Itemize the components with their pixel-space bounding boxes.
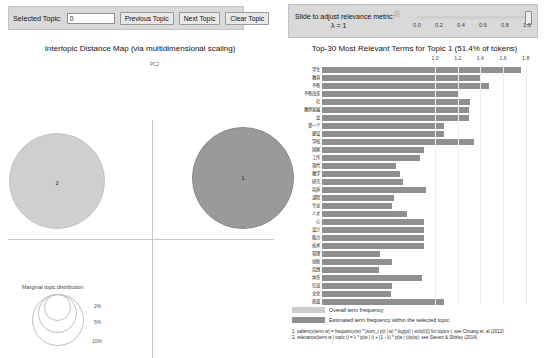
bar-estimated-frequency (322, 211, 407, 217)
topic-controls-bar: Selected Topic: Previous Topic Next Topi… (8, 6, 244, 30)
bar-estimated-frequency (322, 291, 391, 297)
slider-tick-0-2: 0.2 (435, 22, 443, 28)
next-topic-button[interactable]: Next Topic (179, 12, 221, 25)
bar-estimated-frequency (322, 107, 469, 113)
bar-xtick-1-6: 1.6 (499, 55, 506, 61)
bar-overall-frequency (322, 91, 459, 97)
bar-estimated-frequency (322, 75, 480, 81)
bar-row[interactable]: 教师发展 (284, 106, 545, 113)
bar-overall-frequency (322, 115, 469, 121)
legend-swatch-estimated (292, 317, 325, 323)
clear-topic-button[interactable]: Clear Topic (225, 12, 269, 25)
bar-estimated-frequency (322, 131, 444, 137)
bar-row[interactable]: 不断改革 (284, 90, 545, 97)
bar-overall-frequency (322, 203, 392, 209)
bar-overall-frequency (322, 139, 474, 145)
bar-row[interactable]: 教学 (284, 170, 545, 177)
bar-row[interactable]: 课程 (284, 194, 545, 201)
bar-row[interactable]: 信息 (284, 282, 545, 289)
bar-row[interactable]: 创新 (284, 258, 545, 265)
bar-term-label: 课程 (312, 194, 320, 201)
bar-term-label: 设计 (312, 226, 320, 233)
bar-overall-frequency (322, 227, 424, 233)
marginal-topic-distribution-legend: Marginal topic distribution 2% 5% 10% (22, 284, 132, 356)
bar-estimated-frequency (322, 267, 379, 273)
slider-tick-0-0: 0.0 (413, 22, 421, 28)
bar-term-label: 教师发展 (304, 106, 320, 113)
bar-estimated-frequency (322, 259, 392, 265)
marginal-size-label-5: 5% (94, 319, 101, 325)
selected-topic-input[interactable] (67, 13, 115, 24)
relevance-slider-ticks: 0.00.20.40.60.81.0 (413, 22, 531, 32)
bar-row[interactable]: 建设 (284, 130, 545, 137)
bar-xtick-1-4: 1.4 (477, 55, 484, 61)
bar-row[interactable]: 体系 (284, 274, 545, 281)
bar-overall-frequency (322, 251, 380, 257)
bar-row[interactable]: 质量 (284, 298, 545, 305)
bar-estimated-frequency (322, 91, 459, 97)
bar-row[interactable]: 工作 (284, 154, 545, 161)
bar-row[interactable]: 文化 (284, 290, 545, 297)
bar-overall-frequency (322, 275, 422, 281)
lambda-value-label: λ = 1 (331, 22, 346, 29)
bar-row[interactable]: 社 (284, 98, 545, 105)
bar-row[interactable]: 培养 (284, 186, 545, 193)
bar-term-label: 专业 (312, 202, 320, 209)
bar-overall-frequency (322, 147, 424, 153)
slider-tick-0-8: 0.8 (501, 22, 509, 28)
bar-estimated-frequency (322, 187, 426, 193)
info-icon[interactable]: ⓘ (394, 9, 400, 18)
bar-row[interactable]: 教育 (284, 74, 545, 81)
selected-topic-label: Selected Topic: (13, 14, 62, 23)
bar-overall-frequency (322, 131, 444, 137)
bar-row[interactable]: 人才 (284, 210, 545, 217)
bar-estimated-frequency (322, 139, 474, 145)
bar-estimated-frequency (322, 179, 403, 185)
footnote-relevance: 2. relevance(term w | topic t) = λ * p(w… (292, 335, 545, 341)
bar-term-label: 创新 (312, 258, 320, 265)
bar-xtick-1-0: 1.0 (432, 55, 439, 61)
bar-estimated-frequency (322, 83, 489, 89)
relevance-slider-track[interactable] (417, 16, 531, 19)
bar-row[interactable]: 实践 (284, 266, 545, 273)
bar-estimated-frequency (322, 251, 380, 257)
bar-row[interactable]: 心 (284, 218, 545, 225)
bar-overall-frequency (322, 267, 379, 273)
bar-row[interactable]: 第一个 (284, 122, 545, 129)
bar-row[interactable]: 研究 (284, 178, 545, 185)
intertopic-map-title: Intertopic Distance Map (via multidimens… (0, 44, 280, 53)
bar-row[interactable]: 技术 (284, 242, 545, 249)
bar-term-label: 学校 (312, 138, 320, 145)
bar-row[interactable]: 管理 (284, 250, 545, 257)
bar-estimated-frequency (322, 147, 424, 153)
bar-row[interactable]: 学校 (284, 138, 545, 145)
bar-term-label: 国家 (312, 146, 320, 153)
bar-xtick-1-8: 1.8 (522, 55, 529, 61)
bar-estimated-frequency (322, 123, 444, 129)
previous-topic-button[interactable]: Previous Topic (120, 12, 174, 25)
bar-row[interactable]: 不断 (284, 82, 545, 89)
bar-estimated-frequency (322, 195, 394, 201)
bar-row[interactable]: 现代 (284, 162, 545, 169)
bar-term-label: 建设 (312, 130, 320, 137)
bar-row[interactable]: 设计 (284, 226, 545, 233)
legend-item-estimated: Estimated term frequency within the sele… (292, 317, 449, 323)
bar-estimated-frequency (322, 227, 424, 233)
bar-row[interactable]: 专业 (284, 202, 545, 209)
bar-overall-frequency (322, 243, 424, 249)
bar-term-label: 信息 (312, 282, 320, 289)
bar-row[interactable]: 会 (284, 114, 545, 121)
bar-chart-x-axis: 1.01.21.41.61.8 (284, 55, 545, 65)
marginal-legend-title: Marginal topic distribution (22, 284, 83, 290)
bar-overall-frequency (322, 299, 444, 305)
marginal-size-circle-2 (44, 294, 71, 321)
bar-row[interactable]: 能力 (284, 234, 545, 241)
bar-row[interactable]: 国家 (284, 146, 545, 153)
map-x-axis (8, 239, 274, 240)
bar-estimated-frequency (322, 235, 424, 241)
bar-row[interactable]: 学生 (284, 66, 545, 73)
bar-overall-frequency (322, 155, 420, 161)
bar-term-label: 社 (316, 98, 320, 105)
bar-estimated-frequency (322, 283, 392, 289)
